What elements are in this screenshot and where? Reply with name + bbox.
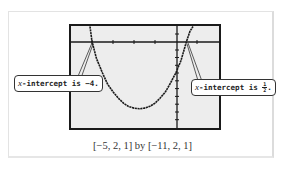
callout-text: -intercept is bbox=[199, 83, 262, 92]
right-callout-leader bbox=[187, 43, 203, 84]
left-intercept-callout: x-intercept is −4. bbox=[14, 75, 103, 92]
callout-text: -intercept is −4. bbox=[22, 79, 99, 88]
window-caption: [−5, 2, 1] by [−11, 2, 1] bbox=[0, 140, 285, 151]
right-intercept-callout: x-intercept is 12. bbox=[191, 79, 276, 96]
